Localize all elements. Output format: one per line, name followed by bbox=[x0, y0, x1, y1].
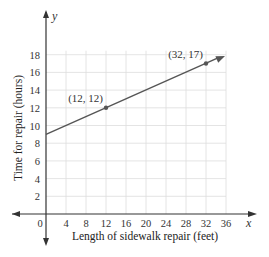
x-tick-label: 20 bbox=[141, 218, 152, 229]
y-tick-label: 12 bbox=[30, 103, 41, 114]
point-label: (12, 12) bbox=[68, 92, 103, 105]
x-tick-label: 28 bbox=[181, 218, 192, 229]
data-point bbox=[204, 61, 208, 65]
x-tick-label: 24 bbox=[161, 218, 172, 229]
y-axis-arrow-up-icon bbox=[43, 10, 49, 18]
y-tick-label: 16 bbox=[30, 67, 41, 78]
grid-lines bbox=[46, 51, 226, 214]
x-tick-label: 4 bbox=[63, 218, 69, 229]
y-tick-labels: 24681012141618 bbox=[30, 50, 41, 203]
y-axis-arrow-down-icon bbox=[43, 238, 49, 246]
line-arrow-icon bbox=[215, 56, 225, 63]
chart: 04812162024283236 24681012141618 (12, 12… bbox=[0, 0, 269, 257]
data-point bbox=[104, 106, 108, 110]
y-tick-label: 10 bbox=[30, 121, 41, 132]
y-variable-label: y bbox=[51, 9, 58, 23]
y-tick-label: 14 bbox=[30, 85, 41, 96]
x-tick-label: 32 bbox=[201, 218, 212, 229]
x-tick-labels: 04812162024283236 bbox=[37, 218, 231, 229]
x-tick-label: 16 bbox=[121, 218, 132, 229]
y-tick-label: 6 bbox=[35, 156, 40, 167]
y-axis-title: Time for repair (hours) bbox=[12, 75, 25, 181]
y-tick-label: 18 bbox=[30, 50, 41, 61]
x-axis-title: Length of sidewalk repair (feet) bbox=[72, 230, 218, 243]
x-tick-label: 12 bbox=[101, 218, 112, 229]
axes bbox=[12, 10, 257, 246]
y-tick-label: 4 bbox=[35, 174, 41, 185]
x-tick-label: 36 bbox=[221, 218, 232, 229]
x-tick-label: 8 bbox=[83, 218, 88, 229]
x-variable-label: x bbox=[245, 216, 252, 230]
point-label: (32, 17) bbox=[168, 48, 203, 61]
data-points: (12, 12)(32, 17) bbox=[68, 48, 208, 110]
y-tick-label: 8 bbox=[35, 138, 40, 149]
x-axis-arrow-left-icon bbox=[12, 211, 20, 217]
y-tick-label: 2 bbox=[35, 191, 40, 202]
x-tick-label: 0 bbox=[37, 218, 42, 229]
